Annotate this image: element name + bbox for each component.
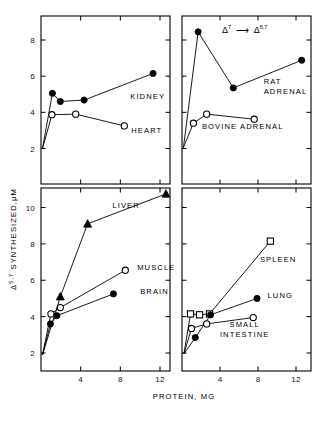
datapoint-kidney-4 [150,70,156,76]
datapoint-muscle-2 [57,304,63,310]
reaction-annotation: Δ7 ⟶ Δ5,7 [222,24,267,35]
datapoint-lung-2 [207,312,213,318]
datapoint-bovine-adrenal-1 [190,120,196,126]
x-tick-label-bottom-right-12: 12 [291,375,301,384]
series-label-rat-adrenal-line1: RAT [264,77,282,86]
datapoint-spleen-1 [187,311,193,317]
y-tick-label-bottom-left-2: 2 [30,349,35,358]
datapoint-kidney-3 [81,97,87,103]
panel-frame-top-right [182,16,311,184]
y-tick-label-top-left-6: 6 [30,72,35,81]
datapoint-heart-3 [121,123,127,129]
series-line-muscle [42,270,125,355]
y-axis-units-text: M [9,188,18,195]
series-line-bovine-adrenal [183,114,254,147]
series-label-spleen: SPLEEN [260,255,297,264]
y-tick-label-bottom-left-6: 6 [30,276,35,285]
svg-text:Δ5,7 SYNTHESIZED,μM: Δ5,7 SYNTHESIZED,μM [8,188,18,290]
datapoint-brain-3 [110,291,116,297]
series-label-liver: LIVER [112,201,139,210]
datapoint-spleen-4 [267,238,273,244]
series-label-muscle: MUSCLE [137,263,175,272]
datapoint-rat-adrenal-2 [230,85,236,91]
datapoint-liver-1 [56,292,64,299]
x-tick-label-bottom-left-4: 4 [78,375,83,384]
datapoint-rat-adrenal-3 [299,57,305,63]
datapoint-small-intestine-1 [188,325,194,331]
datapoint-heart-2 [73,111,79,117]
x-tick-label-bottom-left-12: 12 [155,375,165,384]
datapoint-muscle-3 [122,267,128,273]
y-axis-title: Δ5,7 SYNTHESIZED,μM [8,188,18,290]
datapoint-heart-1 [49,112,55,118]
x-tick-label-bottom-right-4: 4 [218,375,223,384]
x-axis-title: PROTEIN, MG [153,392,215,401]
y-tick-label-bottom-left-10: 10 [26,204,36,213]
datapoint-lung-1 [192,334,198,340]
x-tick-label-bottom-left-8: 8 [118,375,123,384]
y-tick-label-top-left-2: 2 [30,145,35,154]
x-axis-title-text: PROTEIN, MG [153,392,215,401]
datapoint-spleen-2 [196,312,202,318]
datapoint-bovine-adrenal-2 [204,111,210,117]
series-label-small-intestine-line2: INTESTINE [220,330,270,339]
y-tick-label-bottom-left-8: 8 [30,240,35,249]
datapoint-liver-2 [84,220,92,227]
annotation-delta57-superscript: 5,7 [260,24,268,30]
y-tick-label-top-left-8: 8 [30,36,35,45]
series-label-bovine-adrenal: BOVINE ADRENAL [202,122,284,131]
datapoint-kidney-1 [49,90,55,96]
datapoint-kidney-2 [57,98,63,104]
y-axis-title-text: SYNTHESIZED, [9,201,18,269]
datapoint-muscle-1 [48,311,54,317]
axis-ticks [41,16,311,371]
datapoint-small-intestine-2 [204,321,210,327]
annotation-arrow-icon: ⟶ [236,25,249,35]
datapoint-rat-adrenal-1 [195,29,201,35]
series-label-lung: LUNG [268,291,294,300]
panel-frame-bottom-right [182,188,311,371]
y-tick-label-top-left-4: 4 [30,108,35,117]
datapoint-brain-2 [54,313,60,319]
series-label-small-intestine-line1: SMALL [229,320,259,329]
y-tick-label-bottom-left-4: 4 [30,313,35,322]
series-label-rat-adrenal-line2: ADRENAL [264,87,308,96]
series-label-heart: HEART [131,126,162,135]
panel-frame-bottom-left [41,188,170,371]
figure-container: Δ5,7 SYNTHESIZED,μM PROTEIN, MG Δ7 ⟶ Δ5,… [0,0,328,430]
svg-text:Δ7 ⟶ Δ5,7: Δ7 ⟶ Δ5,7 [222,24,267,35]
datapoint-brain-1 [47,321,53,327]
series-line-liver [42,194,165,355]
series-label-kidney: KIDNEY [130,92,165,101]
four-panel-scatter-line-chart: Δ5,7 SYNTHESIZED,μM PROTEIN, MG Δ7 ⟶ Δ5,… [0,0,328,430]
series-label-brain: BRAIN [140,287,169,296]
x-tick-label-bottom-right-8: 8 [256,375,261,384]
datapoint-lung-3 [254,295,260,301]
y-axis-delta-superscript: 5,7 [8,273,14,284]
series-line-heart [42,114,124,148]
panel-frames [41,16,311,371]
datapoint-liver-3 [162,190,170,197]
series-labels-group: KIDNEYHEARTRATADRENALBOVINE ADRENALLIVER… [112,77,307,338]
series-line-kidney [42,73,153,148]
